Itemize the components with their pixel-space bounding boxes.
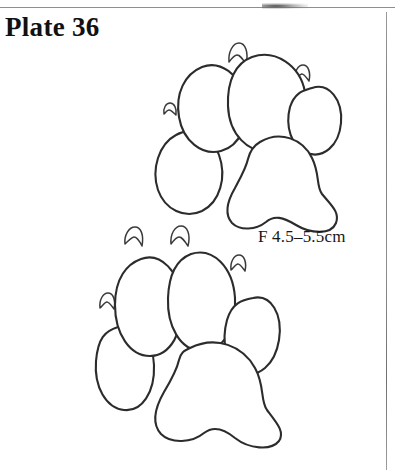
top-horizontal-rule — [0, 7, 395, 8]
claw-mark-icon — [164, 103, 176, 115]
claw-mark-icon — [100, 293, 115, 309]
lower-paw-print — [85, 222, 300, 450]
size-caption: F 4.5–5.5cm — [258, 227, 346, 247]
claw-mark-icon — [171, 226, 189, 246]
page-title: Plate 36 — [5, 11, 100, 43]
claw-mark-icon — [231, 255, 246, 271]
right-vertical-rule — [386, 12, 387, 470]
plate-page: Plate 36 — [0, 0, 395, 470]
claw-mark-icon — [125, 227, 143, 246]
ink-smudge — [262, 3, 308, 9]
upper-paw-print — [140, 22, 350, 237]
